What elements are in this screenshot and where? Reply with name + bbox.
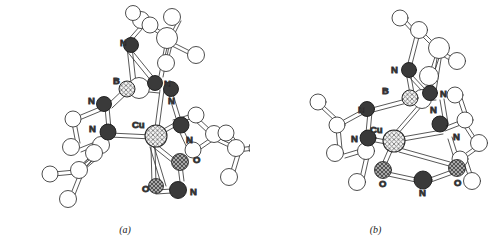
label-N: N xyxy=(88,95,95,106)
label-N: N xyxy=(120,37,127,48)
atom-copper-a xyxy=(145,125,167,147)
label-N: N xyxy=(164,78,171,89)
structure-b-drawing: N B N N N N N Cu O N O xyxy=(250,0,501,218)
panel-a-caption: (a) xyxy=(0,224,250,235)
panel-b-caption: (b) xyxy=(250,224,501,235)
label-N: N xyxy=(168,95,175,106)
atom-boron-b xyxy=(402,90,418,106)
label-N: N xyxy=(190,186,197,197)
label-N: N xyxy=(186,134,193,145)
structure-panel-a: N B N N N N N Cu O O N (a) xyxy=(0,0,250,252)
label-B: B xyxy=(113,75,120,86)
label-B: B xyxy=(382,85,389,96)
label-N: N xyxy=(89,123,96,134)
label-N: N xyxy=(351,133,358,144)
label-Cu: Cu xyxy=(370,124,383,135)
atom-copper-b xyxy=(383,130,405,152)
label-N: N xyxy=(419,187,426,198)
label-O: O xyxy=(142,183,149,194)
molecular-figure: N B N N N N N Cu O O N (a) xyxy=(0,0,501,252)
label-Cu: Cu xyxy=(132,119,145,130)
structure-panel-b: N B N N N N N Cu O N O (b) xyxy=(250,0,501,252)
label-N: N xyxy=(430,104,437,115)
label-O: O xyxy=(454,177,461,188)
label-N: N xyxy=(440,88,447,99)
label-N: N xyxy=(358,104,365,115)
label-N: N xyxy=(453,131,460,142)
label-O: O xyxy=(379,178,386,189)
structure-a-drawing: N B N N N N N Cu O O N xyxy=(0,0,250,218)
label-O: O xyxy=(193,154,200,165)
label-N: N xyxy=(391,64,398,75)
atom-boron-a xyxy=(119,81,135,97)
